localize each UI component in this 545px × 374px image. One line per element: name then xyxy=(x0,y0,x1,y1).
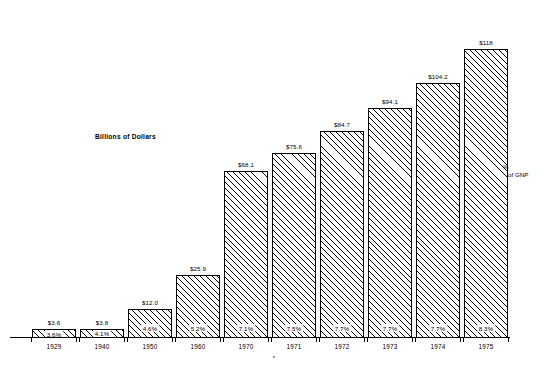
gnp-annotation-line-2: of GNP xyxy=(503,171,528,179)
x-axis-tick xyxy=(220,338,221,342)
bar-value-label: $84.7 xyxy=(334,121,350,128)
x-axis-tick xyxy=(463,338,464,342)
x-axis-tick xyxy=(319,338,320,342)
x-axis-tick xyxy=(31,338,32,342)
x-axis-tick xyxy=(364,338,365,342)
bar-value-label: $94.1 xyxy=(382,98,398,105)
bar-value-label: $75.6 xyxy=(286,143,302,150)
bar[interactable] xyxy=(224,171,268,338)
bar-value-label: $3.6 xyxy=(48,319,60,326)
bar-value-label: $3.8 xyxy=(96,319,108,326)
x-axis-tick xyxy=(271,338,272,342)
x-axis-tick xyxy=(172,338,173,342)
bar-percent-label: 7.1% xyxy=(237,324,255,332)
bar[interactable] xyxy=(272,153,316,338)
x-axis-tick xyxy=(412,338,413,342)
bar-percent-label: 7.7% xyxy=(333,324,351,332)
x-axis-tick xyxy=(268,338,269,342)
bar-chart: $3.63.6%$3.84.1%$12.04.6%$25.95.2%$68.17… xyxy=(0,0,545,374)
bar-percent-label: 7.7% xyxy=(429,324,447,332)
y-axis-title: Billions of Dollars xyxy=(95,133,156,140)
bar-percent-label: 7.5% xyxy=(285,324,303,332)
bar-percent-label: 5.2% xyxy=(189,324,207,332)
bar[interactable] xyxy=(320,131,364,338)
x-axis-tick xyxy=(175,338,176,342)
gnp-annotation-line-1: % xyxy=(503,163,528,171)
bar-value-label: $12.0 xyxy=(142,299,158,306)
x-axis-tick xyxy=(79,338,80,342)
bars-layer: $3.63.6%$3.84.1%$12.04.6%$25.95.2%$68.17… xyxy=(10,8,535,338)
x-axis-tick xyxy=(127,338,128,342)
scan-artifact-speck xyxy=(273,356,275,358)
x-axis-tick xyxy=(76,338,77,342)
bar-value-label: $118 xyxy=(479,39,493,46)
x-axis-tick xyxy=(367,338,368,342)
x-axis-label-1975: 1975 xyxy=(456,343,516,351)
x-axis-tick xyxy=(223,338,224,342)
plot-area: $3.63.6%$3.84.1%$12.04.6%$25.95.2%$68.17… xyxy=(10,8,535,338)
x-axis-baseline xyxy=(10,337,510,338)
bar[interactable] xyxy=(464,49,508,338)
bar-percent-label: 8.3% xyxy=(477,324,495,332)
x-axis-tick xyxy=(124,338,125,342)
bar-value-label: $68.1 xyxy=(238,161,254,168)
bar-percent-label: 7.7% xyxy=(381,324,399,332)
gnp-annotation: % of GNP xyxy=(503,163,528,178)
x-axis-tick xyxy=(460,338,461,342)
bar-percent-label: 4.6% xyxy=(141,324,159,332)
bar-value-label: $104.2 xyxy=(428,73,448,80)
x-axis-tick xyxy=(415,338,416,342)
x-axis-tick xyxy=(508,338,509,342)
bar[interactable] xyxy=(416,83,460,338)
bar[interactable] xyxy=(368,108,412,338)
bar-value-label: $25.9 xyxy=(190,265,206,272)
x-axis-tick xyxy=(316,338,317,342)
